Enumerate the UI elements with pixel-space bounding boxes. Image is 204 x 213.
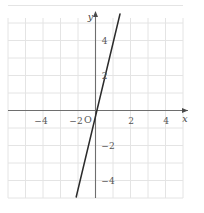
y-axis-arrow-icon <box>93 11 98 17</box>
coordinate-plane-chart: −4 −2 2 4 4 2 −2 −4 O x y <box>0 0 204 213</box>
x-axis-label: x <box>182 113 188 124</box>
y-tick-label-neg2: −2 <box>101 141 114 151</box>
y-tick-label-neg4: −4 <box>101 176 115 186</box>
x-tick-label-4: 4 <box>163 116 169 126</box>
x-tick-label-neg4: −4 <box>34 116 48 126</box>
axis-name-labels: x y <box>87 11 189 125</box>
x-tick-label-2: 2 <box>128 116 134 126</box>
y-tick-label-4: 4 <box>102 36 108 46</box>
y-axis-label: y <box>87 11 94 22</box>
x-tick-label-neg2: −2 <box>69 116 82 126</box>
graph-figure: −4 −2 2 4 4 2 −2 −4 O x y <box>0 0 204 213</box>
origin-label: O <box>84 114 92 125</box>
y-tick-label-2: 2 <box>102 71 108 81</box>
